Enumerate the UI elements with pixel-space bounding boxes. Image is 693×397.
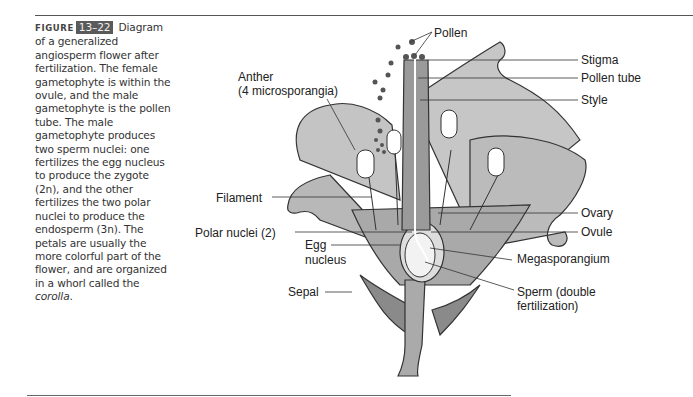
label-style: Style	[581, 93, 608, 107]
sepal-right	[432, 285, 480, 335]
label-egg-sub: nucleus	[305, 253, 346, 267]
label-filament: Filament	[216, 191, 262, 205]
bottom-rule	[27, 395, 511, 396]
ovule	[405, 233, 435, 277]
label-pollen-tube: Pollen tube	[581, 71, 641, 85]
label-egg: Egg	[305, 238, 326, 252]
label-sperm: Sperm (double	[517, 285, 596, 299]
label-sperm-sub: fertilization)	[517, 299, 578, 313]
label-pollen: Pollen	[434, 26, 467, 40]
label-stigma: Stigma	[581, 53, 618, 67]
label-polar-nuclei: Polar nuclei (2)	[195, 226, 276, 240]
label-megasporangium: Megasporangium	[517, 252, 610, 266]
label-anther-sub: (4 microsporangia)	[238, 84, 338, 98]
label-ovary: Ovary	[581, 206, 613, 220]
label-ovule: Ovule	[581, 225, 612, 239]
label-sepal: Sepal	[288, 285, 319, 299]
label-anther: Anther	[238, 70, 273, 84]
